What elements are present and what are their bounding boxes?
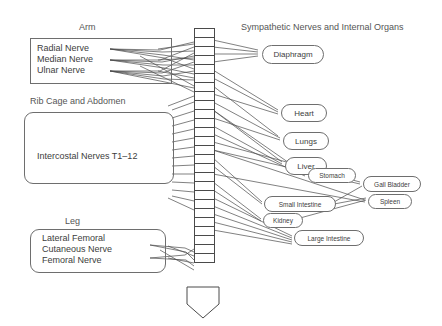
organ-label-spleen: Spleen <box>368 194 412 209</box>
organ-label-large-intestine: Large Intestine <box>294 230 364 246</box>
organ-label-lungs: Lungs <box>283 132 329 150</box>
section-heading-sympathetic: Sympathetic Nerves and Internal Organs <box>241 22 404 32</box>
nerve-label-ulnar: Ulnar Nerve <box>37 65 85 76</box>
section-heading-arm: Arm <box>79 22 96 32</box>
organ-label-diaphragm: Diaphragm <box>262 45 324 64</box>
nerve-label-radial: Radial Nerve <box>37 43 89 54</box>
nerve-label-median: Median Nerve <box>37 54 93 65</box>
section-heading-leg: Leg <box>65 216 80 226</box>
nerve-label-femoral: Femoral Nerve <box>42 255 102 266</box>
organ-label-kidney: Kidney <box>263 213 303 228</box>
nerve-label-intercostal: Intercostal Nerves T1–12 <box>37 151 137 162</box>
vertebra-segment <box>194 253 215 263</box>
organ-label-gall-bladder: Gall Bladder <box>363 176 421 192</box>
nerve-label-lat-femoral-2: Cutaneous Nerve <box>42 244 112 255</box>
nerve-diagram: Arm Radial Nerve Median Nerve Ulnar Nerv… <box>0 0 442 326</box>
organ-label-small-intestine: Small Intestine <box>264 196 336 212</box>
nerve-label-lat-femoral-1: Lateral Femoral <box>42 233 105 244</box>
sacrum-shape <box>186 286 220 319</box>
organ-label-stomach: Stomach <box>308 168 356 183</box>
ribcage-nerve-box <box>24 112 174 184</box>
section-heading-ribcage: Rib Cage and Abdomen <box>30 96 126 106</box>
organ-label-heart: Heart <box>281 104 327 122</box>
